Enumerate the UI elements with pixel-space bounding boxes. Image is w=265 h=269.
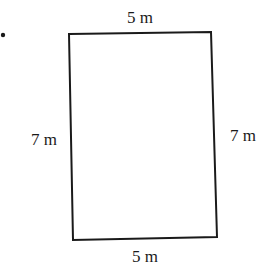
right-side-label: 7 m <box>230 126 256 145</box>
left-side-label: 7 m <box>31 130 57 149</box>
rectangle-shape <box>69 32 217 240</box>
diagram-canvas: 5 m 5 m 7 m 7 m <box>0 0 265 269</box>
bottom-side-label: 5 m <box>132 247 158 266</box>
top-side-label: 5 m <box>127 8 153 27</box>
bullet-dot <box>1 33 5 37</box>
